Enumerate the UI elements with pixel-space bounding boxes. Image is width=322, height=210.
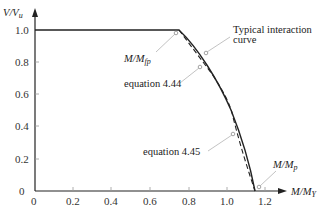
y-tick-label: 1.0 bbox=[15, 24, 29, 36]
y-axis-arrow-icon bbox=[32, 8, 38, 17]
x-axis-title: M/MY bbox=[290, 186, 317, 199]
x-tick-label: 0.4 bbox=[104, 195, 118, 207]
x-tick-label: 0 bbox=[31, 195, 37, 207]
y-tick-label: 0.6 bbox=[15, 88, 29, 100]
leader-lines bbox=[156, 31, 276, 189]
y-tick-label: 0 bbox=[19, 185, 25, 197]
equation-444-445-curve bbox=[179, 30, 255, 191]
y-tick-label: 0.2 bbox=[15, 153, 29, 165]
equation-445-label: equation 4.45 bbox=[143, 146, 200, 157]
x-tick-label: 0.2 bbox=[66, 195, 80, 207]
equation-444-label: equation 4.44 bbox=[124, 78, 182, 89]
interaction-chart: 0 0.2 0.4 0.6 0.8 1.0 0 0.2 0.4 0.6 0.8 … bbox=[0, 0, 322, 210]
x-tick-label: 1.2 bbox=[258, 195, 272, 207]
mp-label: M/Mp bbox=[272, 159, 297, 172]
x-tick-label: 1.0 bbox=[220, 195, 234, 207]
x-tick-label: 0.8 bbox=[182, 195, 196, 207]
y-tick-label: 0.4 bbox=[15, 120, 29, 132]
x-tick-label: 0.6 bbox=[143, 195, 157, 207]
typical-curve-label-2: curve bbox=[233, 34, 257, 45]
y-axis-title: V/Vu bbox=[3, 7, 23, 20]
typical-interaction-curve bbox=[35, 30, 255, 191]
x-axis-arrow-icon bbox=[278, 188, 287, 194]
y-tick-label: 0.8 bbox=[15, 56, 29, 68]
mfp-label: M/Mfp bbox=[123, 53, 151, 66]
